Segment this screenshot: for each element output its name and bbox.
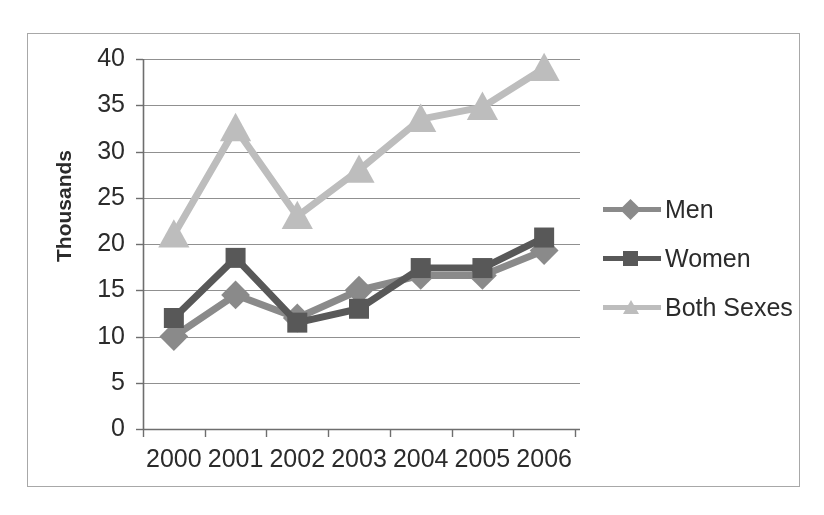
x-tick-label: 2000 [146, 444, 202, 473]
y-tick-label: 30 [75, 136, 125, 165]
y-tick-label: 40 [75, 43, 125, 72]
legend-swatch-triangle-icon [603, 297, 661, 317]
x-tick-label: 2003 [331, 444, 387, 473]
legend-swatch-square-icon [603, 248, 661, 268]
y-tick-label: 10 [75, 321, 125, 350]
x-tick-label: 2004 [393, 444, 449, 473]
x-tick-label: 2002 [269, 444, 325, 473]
x-tick-label: 2006 [516, 444, 572, 473]
y-tick-label: 25 [75, 182, 125, 211]
x-tick-label: 2001 [208, 444, 264, 473]
y-tick-label: 15 [75, 274, 125, 303]
legend-item-both-sexes[interactable]: Both Sexes [603, 290, 793, 324]
legend-swatch-diamond-icon [603, 199, 661, 219]
y-tick-label: 0 [75, 413, 125, 442]
legend-item-women[interactable]: Women [603, 241, 751, 275]
x-tick-label: 2005 [455, 444, 511, 473]
legend-label: Women [665, 246, 751, 271]
legend-item-men[interactable]: Men [603, 192, 714, 226]
y-tick-label: 35 [75, 89, 125, 118]
y-tick-label: 20 [75, 228, 125, 257]
y-tick-label: 5 [75, 367, 125, 396]
legend-label: Men [665, 197, 714, 222]
legend-label: Both Sexes [665, 295, 793, 320]
